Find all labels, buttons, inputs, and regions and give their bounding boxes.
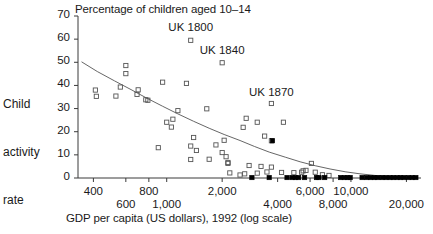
data-point-filled: [322, 175, 326, 179]
data-point-filled: [317, 175, 321, 179]
data-points-developing: [93, 38, 331, 177]
data-point-open: [228, 171, 232, 175]
data-point-open: [222, 138, 226, 142]
data-point-open: [124, 63, 128, 67]
data-point-open: [300, 170, 304, 174]
data-point-open: [238, 173, 242, 177]
data-point-filled: [270, 139, 274, 143]
data-point-open: [255, 171, 259, 175]
data-point-filled: [267, 175, 271, 179]
data-point-filled: [376, 175, 380, 179]
data-point-open: [244, 116, 248, 120]
data-point-open: [169, 125, 173, 129]
data-point-filled: [285, 175, 289, 179]
data-point-open: [220, 61, 224, 65]
scatter-plot-canvas: [0, 0, 433, 234]
data-point-open: [259, 164, 263, 168]
data-point-open: [269, 165, 273, 169]
data-point-open: [136, 88, 140, 92]
data-point-open: [207, 157, 211, 161]
data-point-filled: [302, 175, 306, 179]
data-point-open: [263, 134, 267, 138]
data-point-open: [171, 117, 175, 121]
data-point-open: [161, 80, 165, 84]
data-point-open: [220, 150, 224, 154]
chart-figure: Percentage of children aged 10–14 Child …: [0, 0, 433, 234]
data-point-open: [269, 101, 273, 105]
data-point-open: [165, 120, 169, 124]
data-point-open: [279, 170, 283, 174]
data-point-open: [176, 109, 180, 113]
trend-line: [82, 62, 418, 178]
data-point-open: [184, 81, 188, 85]
data-point-filled: [296, 175, 300, 179]
data-point-open: [214, 143, 218, 147]
data-point-open: [247, 163, 251, 167]
data-point-open: [292, 171, 296, 175]
data-points-industrialized: [250, 139, 418, 180]
data-point-open: [241, 125, 245, 129]
data-point-open: [224, 155, 228, 159]
data-point-open: [192, 135, 196, 139]
data-point-open: [189, 157, 193, 161]
data-point-open: [124, 72, 128, 76]
data-point-open: [281, 120, 285, 124]
data-point-open: [265, 170, 269, 174]
data-point-filled: [402, 175, 406, 179]
data-point-filled: [250, 175, 254, 179]
data-point-open: [327, 173, 331, 177]
data-point-open: [194, 148, 198, 152]
data-point-open: [313, 170, 317, 174]
trend-line-path: [82, 62, 418, 178]
data-point-open: [114, 94, 118, 98]
data-point-filled: [360, 175, 364, 179]
data-point-open: [189, 144, 193, 148]
data-point-filled: [414, 175, 418, 179]
data-point-filled: [348, 175, 352, 179]
data-point-open: [205, 107, 209, 111]
data-point-open: [94, 94, 98, 98]
data-point-open: [189, 38, 193, 42]
axis-group: [78, 16, 421, 178]
data-point-open: [118, 85, 122, 89]
data-point-open: [243, 172, 247, 176]
data-point-open: [255, 120, 259, 124]
data-point-open: [93, 88, 97, 92]
y-tick-marks: [74, 16, 78, 178]
data-point-open: [156, 146, 160, 150]
